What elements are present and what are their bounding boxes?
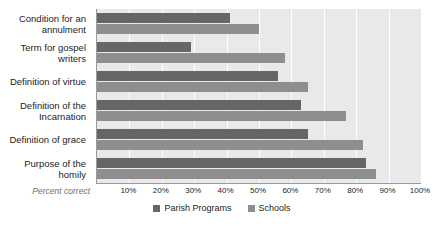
bar-schools bbox=[97, 140, 363, 150]
x-axis-ticks: 10%20%30%40%50%60%70%80%90%100% bbox=[0, 186, 444, 198]
legend-swatch-icon bbox=[153, 205, 160, 212]
bar-chart: Condition for an annulmentTerm for gospe… bbox=[0, 0, 444, 227]
bar-parish-programs bbox=[97, 129, 308, 139]
category-label: Definition of the Incarnation bbox=[0, 96, 92, 125]
bar-schools bbox=[97, 82, 308, 92]
plot-area bbox=[96, 9, 421, 183]
bar-parish-programs bbox=[97, 158, 366, 168]
x-tick-label: 100% bbox=[410, 186, 430, 195]
x-tick-label: 40% bbox=[218, 186, 234, 195]
bar-schools bbox=[97, 53, 285, 63]
chart-title-clipped bbox=[0, 0, 444, 7]
bar-row bbox=[97, 67, 421, 96]
legend-item: Schools bbox=[248, 203, 291, 213]
x-tick-label: 10% bbox=[120, 186, 136, 195]
bar-row bbox=[97, 96, 421, 125]
x-tick-label: 60% bbox=[282, 186, 298, 195]
category-label: Term for gospel writers bbox=[0, 38, 92, 67]
bar-parish-programs bbox=[97, 71, 278, 81]
category-axis-labels: Condition for an annulmentTerm for gospe… bbox=[0, 9, 92, 183]
x-tick-label: 50% bbox=[250, 186, 266, 195]
legend-swatch-icon bbox=[248, 205, 255, 212]
x-tick-label: 20% bbox=[153, 186, 169, 195]
bar-parish-programs bbox=[97, 13, 230, 23]
category-label: Definition of grace bbox=[0, 125, 92, 154]
bar-parish-programs bbox=[97, 42, 191, 52]
x-axis-line bbox=[96, 183, 421, 184]
legend-item: Parish Programs bbox=[153, 203, 231, 213]
x-tick-label: 90% bbox=[380, 186, 396, 195]
legend-label: Parish Programs bbox=[164, 203, 231, 213]
x-tick-label: 70% bbox=[315, 186, 331, 195]
bar-rows bbox=[97, 9, 421, 183]
chart-legend: Parish ProgramsSchools bbox=[0, 203, 444, 213]
bar-row bbox=[97, 125, 421, 154]
category-label: Condition for an annulment bbox=[0, 9, 92, 38]
x-tick-label: 80% bbox=[347, 186, 363, 195]
bar-schools bbox=[97, 24, 259, 34]
legend-label: Schools bbox=[259, 203, 291, 213]
gridline bbox=[421, 9, 422, 183]
bar-schools bbox=[97, 169, 376, 179]
bar-schools bbox=[97, 111, 346, 121]
bar-row bbox=[97, 9, 421, 38]
bar-row bbox=[97, 154, 421, 183]
bar-parish-programs bbox=[97, 100, 301, 110]
category-label: Definition of virtue bbox=[0, 67, 92, 96]
bar-row bbox=[97, 38, 421, 67]
x-tick-label: 30% bbox=[185, 186, 201, 195]
category-label: Purpose of the homily bbox=[0, 154, 92, 183]
